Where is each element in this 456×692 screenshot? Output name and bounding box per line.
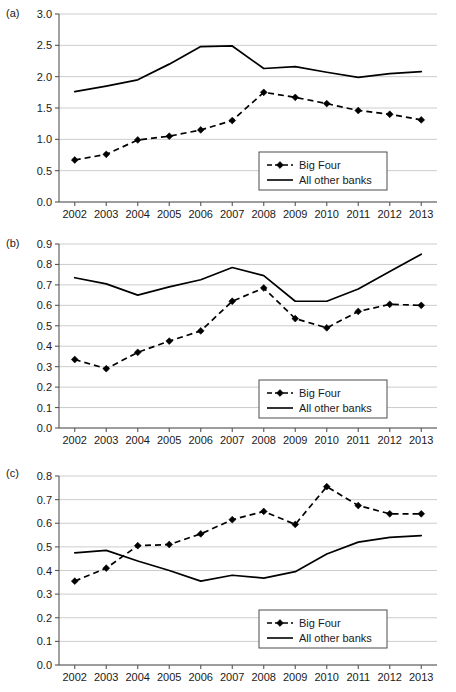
- x-tick-label: 2007: [220, 671, 244, 683]
- x-tick-label: 2007: [220, 208, 244, 220]
- x-tick-label: 2013: [409, 434, 433, 446]
- data-point-marker: [134, 137, 141, 144]
- x-tick-label: 2006: [189, 671, 213, 683]
- series-line-all-other-banks: [75, 536, 422, 582]
- x-tick-label: 2005: [157, 434, 181, 446]
- y-tick-label: 0.4: [37, 340, 52, 352]
- plot-svg-b: 0.00.10.20.30.40.50.60.70.80.92002200320…: [0, 232, 456, 460]
- figure-three-line-charts: (a) 0.00.51.01.52.02.53.0200220032004200…: [0, 0, 456, 692]
- data-point-marker: [229, 516, 236, 523]
- data-point-marker: [197, 327, 204, 334]
- x-tick-label: 2008: [252, 208, 276, 220]
- x-tick-label: 2002: [63, 208, 87, 220]
- data-point-marker: [355, 308, 362, 315]
- data-point-marker: [134, 349, 141, 356]
- y-tick-label: 0.3: [37, 588, 52, 600]
- data-point-marker: [386, 301, 393, 308]
- y-tick-label: 0.8: [37, 258, 52, 270]
- data-point-marker: [71, 356, 78, 363]
- y-tick-label: 0.7: [37, 494, 52, 506]
- legend-label-all-other-banks: All other banks: [299, 632, 372, 644]
- legend-label-big-four: Big Four: [299, 159, 341, 171]
- data-point-marker: [197, 530, 204, 537]
- y-tick-label: 0.0: [37, 196, 52, 208]
- data-point-marker: [71, 578, 78, 585]
- data-point-marker: [229, 117, 236, 124]
- x-tick-label: 2008: [252, 671, 276, 683]
- legend-label-all-other-banks: All other banks: [299, 174, 372, 186]
- x-tick-label: 2013: [409, 671, 433, 683]
- y-tick-label: 0.4: [37, 565, 52, 577]
- data-point-marker: [418, 302, 425, 309]
- y-tick-label: 0.7: [37, 279, 52, 291]
- x-tick-label: 2010: [315, 208, 339, 220]
- plot-svg-a: 0.00.51.01.52.02.53.02002200320042005200…: [0, 0, 456, 232]
- y-tick-label: 3.0: [37, 8, 52, 20]
- legend-label-big-four: Big Four: [299, 617, 341, 629]
- x-tick-label: 2003: [94, 208, 118, 220]
- x-tick-label: 2013: [409, 208, 433, 220]
- data-point-marker: [386, 111, 393, 118]
- x-tick-label: 2012: [378, 208, 402, 220]
- x-tick-label: 2011: [346, 208, 370, 220]
- x-tick-label: 2012: [378, 434, 402, 446]
- x-tick-label: 2006: [189, 208, 213, 220]
- y-tick-label: 1.5: [37, 102, 52, 114]
- y-tick-label: 0.1: [37, 635, 52, 647]
- data-point-marker: [103, 151, 110, 158]
- y-tick-label: 1.0: [37, 133, 52, 145]
- x-tick-label: 2004: [126, 671, 150, 683]
- data-point-marker: [166, 133, 173, 140]
- x-tick-label: 2002: [63, 434, 87, 446]
- data-point-marker: [134, 542, 141, 549]
- x-tick-label: 2005: [157, 671, 181, 683]
- y-tick-label: 0.1: [37, 402, 52, 414]
- y-tick-label: 0.2: [37, 612, 52, 624]
- x-tick-label: 2011: [346, 671, 370, 683]
- x-tick-label: 2008: [252, 434, 276, 446]
- data-point-marker: [166, 338, 173, 345]
- plot-area-c: 0.00.10.20.30.40.50.60.70.82002200320042…: [0, 460, 456, 692]
- data-point-marker: [418, 117, 425, 124]
- y-tick-label: 0.0: [37, 659, 52, 671]
- plot-area-b: 0.00.10.20.30.40.50.60.70.80.92002200320…: [0, 232, 456, 460]
- y-tick-label: 0.5: [37, 541, 52, 553]
- x-tick-label: 2002: [63, 671, 87, 683]
- series-line-big-four: [75, 288, 422, 369]
- x-tick-label: 2011: [346, 434, 370, 446]
- y-tick-label: 0.9: [37, 238, 52, 250]
- series-line-big-four: [75, 487, 422, 581]
- x-tick-label: 2009: [283, 208, 307, 220]
- data-point-marker: [260, 508, 267, 515]
- y-tick-label: 2.5: [37, 39, 52, 51]
- y-tick-label: 0.8: [37, 470, 52, 482]
- y-tick-label: 0.6: [37, 517, 52, 529]
- x-tick-label: 2003: [94, 434, 118, 446]
- x-tick-label: 2007: [220, 434, 244, 446]
- y-tick-label: 2.0: [37, 71, 52, 83]
- data-point-marker: [71, 157, 78, 164]
- y-tick-label: 0.3: [37, 361, 52, 373]
- x-tick-label: 2012: [378, 671, 402, 683]
- x-tick-label: 2004: [126, 208, 150, 220]
- data-point-marker: [386, 510, 393, 517]
- data-point-marker: [323, 100, 330, 107]
- plot-svg-c: 0.00.10.20.30.40.50.60.70.82002200320042…: [0, 460, 456, 692]
- data-point-marker: [418, 510, 425, 517]
- series-line-all-other-banks: [75, 46, 422, 92]
- chart-panel-b: (b) 0.00.10.20.30.40.50.60.70.80.9200220…: [0, 232, 456, 460]
- y-tick-label: 0.0: [37, 422, 52, 434]
- chart-panel-a: (a) 0.00.51.01.52.02.53.0200220032004200…: [0, 0, 456, 232]
- x-tick-label: 2006: [189, 434, 213, 446]
- y-tick-label: 0.6: [37, 299, 52, 311]
- y-tick-label: 0.5: [37, 165, 52, 177]
- x-tick-label: 2005: [157, 208, 181, 220]
- series-line-big-four: [75, 92, 422, 160]
- y-tick-label: 0.5: [37, 320, 52, 332]
- x-tick-label: 2010: [315, 671, 339, 683]
- x-tick-label: 2010: [315, 434, 339, 446]
- x-tick-label: 2004: [126, 434, 150, 446]
- y-tick-label: 0.2: [37, 381, 52, 393]
- plot-area-a: 0.00.51.01.52.02.53.02002200320042005200…: [0, 0, 456, 232]
- chart-panel-c: (c) 0.00.10.20.30.40.50.60.70.8200220032…: [0, 460, 456, 692]
